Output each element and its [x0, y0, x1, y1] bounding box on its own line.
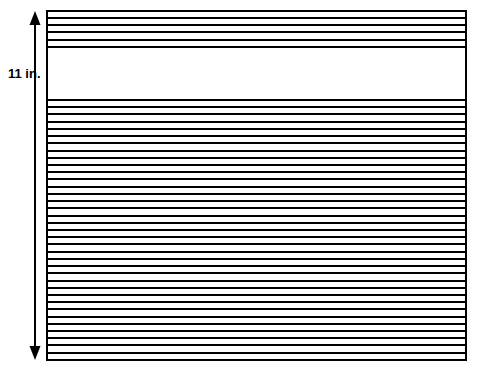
height-dimension-arrow: [30, 11, 41, 360]
figure-canvas: [0, 0, 481, 383]
dimension-arrow-head-bottom: [30, 346, 41, 360]
height-dimension-label: 11 in.: [8, 67, 41, 80]
paper-sheet: [47, 11, 466, 360]
ruled-paper-figure: 11 in.: [0, 0, 481, 383]
paper-rectangle: [47, 11, 466, 360]
dimension-arrow-head-top: [30, 11, 41, 25]
